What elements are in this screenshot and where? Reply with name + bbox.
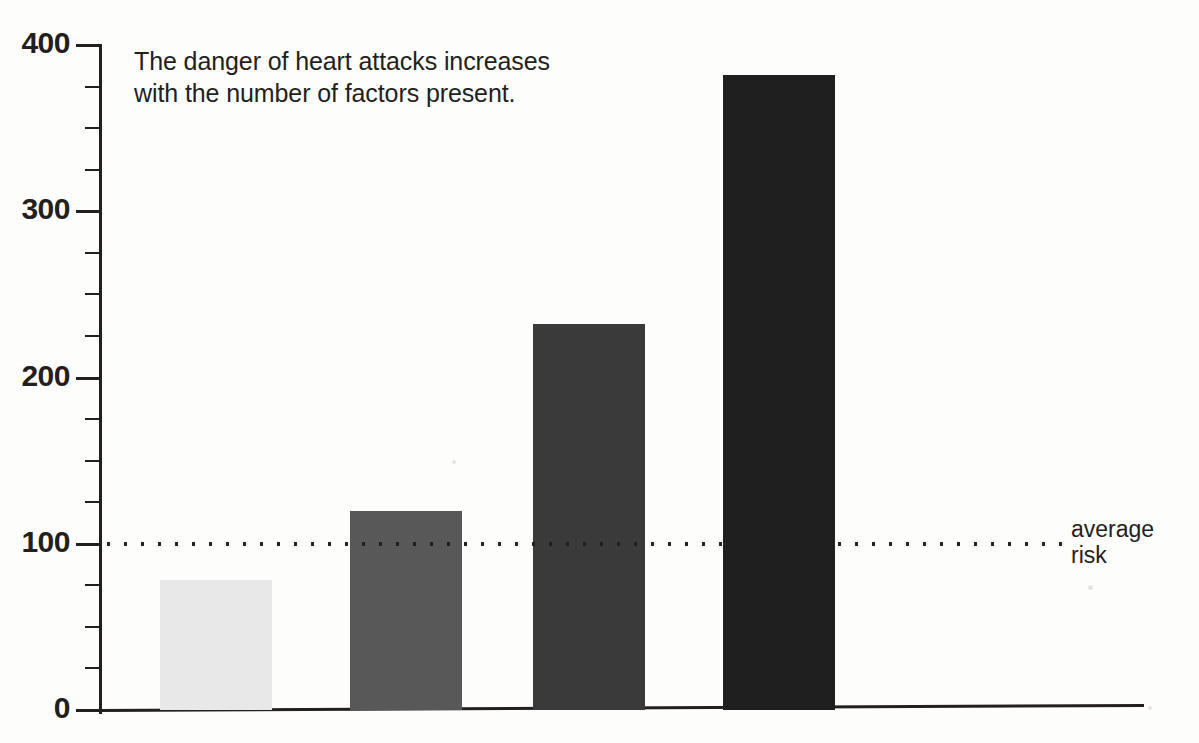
y-tick-minor <box>85 418 101 420</box>
y-tick-minor <box>85 584 101 586</box>
y-tick-label: 0 <box>0 693 70 723</box>
y-tick-minor <box>85 626 101 628</box>
y-tick-major <box>76 210 101 213</box>
scan-speck <box>1148 706 1152 710</box>
y-tick-label: 300 <box>0 194 70 224</box>
y-tick-minor <box>85 86 101 88</box>
y-tick-minor <box>85 252 101 254</box>
y-tick-major <box>76 709 101 712</box>
y-tick-minor <box>85 335 101 337</box>
average-risk-line <box>100 541 1068 547</box>
bar-1 <box>160 580 272 710</box>
average-risk-label: average risk <box>1071 517 1154 569</box>
y-tick-major <box>76 377 101 380</box>
y-tick-major <box>76 543 101 546</box>
y-tick-minor <box>85 460 101 462</box>
bar-3 <box>533 324 645 710</box>
chart-page: 4003002001000 average risk The danger of… <box>0 0 1199 743</box>
y-tick-minor <box>85 501 101 503</box>
y-tick-label: 100 <box>0 527 70 557</box>
y-tick-major <box>76 44 101 47</box>
y-tick-label: 400 <box>0 28 70 58</box>
y-tick-label: 200 <box>0 361 70 391</box>
y-tick-minor <box>85 127 101 129</box>
y-tick-minor <box>85 667 101 669</box>
bar-4 <box>723 75 835 710</box>
y-tick-minor <box>85 293 101 295</box>
chart-caption: The danger of heart attacks increases wi… <box>134 46 550 109</box>
y-tick-minor <box>85 169 101 171</box>
scan-speck <box>1088 585 1093 590</box>
scan-speck <box>452 460 456 464</box>
plot-area: 4003002001000 average risk The danger of… <box>0 0 1199 743</box>
